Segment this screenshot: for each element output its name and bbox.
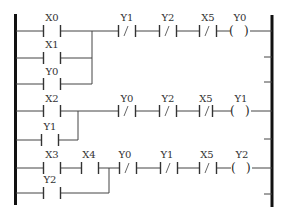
contact-label: X1 — [45, 39, 58, 50]
contact-label: X3 — [45, 149, 58, 160]
contact-label: Y0 — [118, 149, 132, 160]
contact-label: X5 — [200, 149, 213, 160]
contact-no-x1[interactable]: X1 — [44, 39, 61, 64]
rung-2: X2 Y1 Y0 Y2 — [16, 93, 272, 146]
contact-label: X5 — [199, 93, 212, 104]
coil-label: Y2 — [235, 149, 249, 160]
contact-nc-y1[interactable]: Y1 — [160, 149, 178, 174]
contact-label: X2 — [45, 93, 58, 104]
contact-label: Y2 — [43, 174, 57, 185]
svg-text:(: ( — [229, 24, 234, 38]
contact-label: Y1 — [160, 149, 174, 160]
contact-label: Y0 — [120, 93, 134, 104]
contact-label: Y2 — [161, 12, 175, 23]
svg-text:): ) — [244, 24, 249, 38]
contact-nc-y0[interactable]: Y0 — [118, 149, 137, 174]
coil-y1[interactable]: ( ) Y1 — [230, 93, 250, 118]
contact-no-y0[interactable]: Y0 — [44, 66, 61, 90]
coil-y2[interactable]: ( ) Y2 — [231, 149, 251, 175]
coil-label: Y0 — [233, 12, 247, 23]
rung-3: X3 X4 Y2 Y0 Y1 — [16, 149, 272, 199]
coil-label: Y1 — [234, 93, 248, 104]
contact-no-x4[interactable]: X4 — [82, 149, 99, 174]
svg-text:): ) — [246, 161, 251, 175]
contact-no-y1[interactable]: Y1 — [42, 121, 59, 146]
contact-nc-y2[interactable]: Y2 — [160, 93, 177, 117]
contact-nc-y0[interactable]: Y0 — [119, 93, 136, 117]
svg-text:): ) — [245, 104, 250, 118]
contact-no-x0[interactable]: X0 — [44, 12, 61, 37]
contact-label: Y1 — [43, 121, 57, 132]
contact-label: Y2 — [161, 93, 175, 104]
contact-label: X5 — [201, 12, 214, 23]
contact-nc-x5[interactable]: X5 — [200, 12, 217, 37]
contact-no-x3[interactable]: X3 — [44, 149, 61, 174]
rung-1: X0 X1 Y0 Y1 — [16, 12, 272, 90]
contact-label: Y0 — [45, 66, 59, 77]
svg-text:(: ( — [230, 104, 235, 118]
contact-no-y2[interactable]: Y2 — [43, 174, 61, 199]
contact-no-x2[interactable]: X2 — [44, 93, 61, 117]
ladder-diagram: X0 X1 Y0 Y1 — [0, 0, 285, 219]
contact-label: X0 — [45, 12, 58, 23]
contact-label: Y1 — [120, 12, 134, 23]
contact-label: X4 — [82, 149, 95, 160]
svg-text:(: ( — [231, 161, 236, 175]
contact-nc-x5[interactable]: X5 — [199, 93, 212, 117]
contact-nc-y2[interactable]: Y2 — [160, 12, 177, 37]
coil-y0[interactable]: ( ) Y0 — [229, 12, 249, 38]
contact-nc-y1[interactable]: Y1 — [119, 12, 136, 37]
contact-nc-x5[interactable]: X5 — [200, 149, 217, 174]
